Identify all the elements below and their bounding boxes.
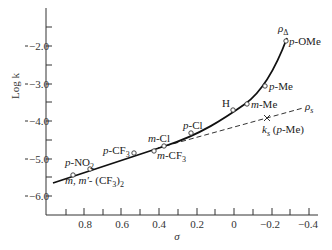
x-tick-label: −0.2 (260, 218, 280, 230)
y-tick-label: −6.0 (29, 190, 49, 202)
point-h (231, 108, 235, 112)
rho-delta-label: ρΔ (277, 22, 288, 37)
label-m-cl: m-Cl (148, 132, 170, 144)
label-p-no2: p-NO2 (64, 156, 94, 171)
ks-cross-marker (264, 115, 270, 121)
label-p-cl: p-Cl (182, 119, 203, 131)
x-tick-label: 0.4 (152, 218, 166, 230)
chart: −2.0 −3.0 −4.0 −5.0 −6.0 Log k 0.8 0.6 0… (0, 0, 332, 250)
label-p-cf3: p-CF3 (102, 144, 130, 159)
label-h: H (222, 97, 230, 109)
x-tick-label: −0.4 (298, 218, 318, 230)
label-mm-cf3-2: m, m′- (CF3)2 (65, 174, 124, 189)
y-tick-label: −3.0 (29, 78, 49, 90)
label-p-ome: p-OMe (288, 35, 321, 47)
point-m-me (245, 102, 249, 106)
point-p-me (263, 84, 267, 88)
point-m-cl (162, 144, 166, 148)
rho-s-label: ρs (304, 100, 313, 115)
x-tick-label: 0 (231, 218, 237, 230)
point-m-cf3 (152, 149, 156, 153)
x-tick-label: 0.2 (190, 218, 204, 230)
x-tick-labels: 0.8 0.6 0.4 0.2 0 −0.2 −0.4 (78, 218, 318, 230)
point-p-cf3 (132, 151, 136, 155)
y-tick-label: −4.0 (29, 115, 49, 127)
x-axis-label: σ (174, 230, 180, 242)
point-p-cl (189, 131, 193, 135)
y-tick-label: −5.0 (29, 153, 49, 165)
label-m-me: m-Me (251, 98, 277, 110)
y-axis-label: Log k (9, 73, 21, 99)
x-tick-label: 0.6 (115, 218, 129, 230)
x-axis (46, 208, 318, 215)
point-p-ome (284, 39, 288, 43)
label-p-me: p-Me (268, 80, 293, 92)
label-m-cf3: m-CF3 (157, 149, 186, 164)
x-tick-label: 0.8 (78, 218, 92, 230)
y-tick-label: −2.0 (29, 40, 49, 52)
label-ks-p-me: ks (p-Me) (262, 123, 304, 138)
